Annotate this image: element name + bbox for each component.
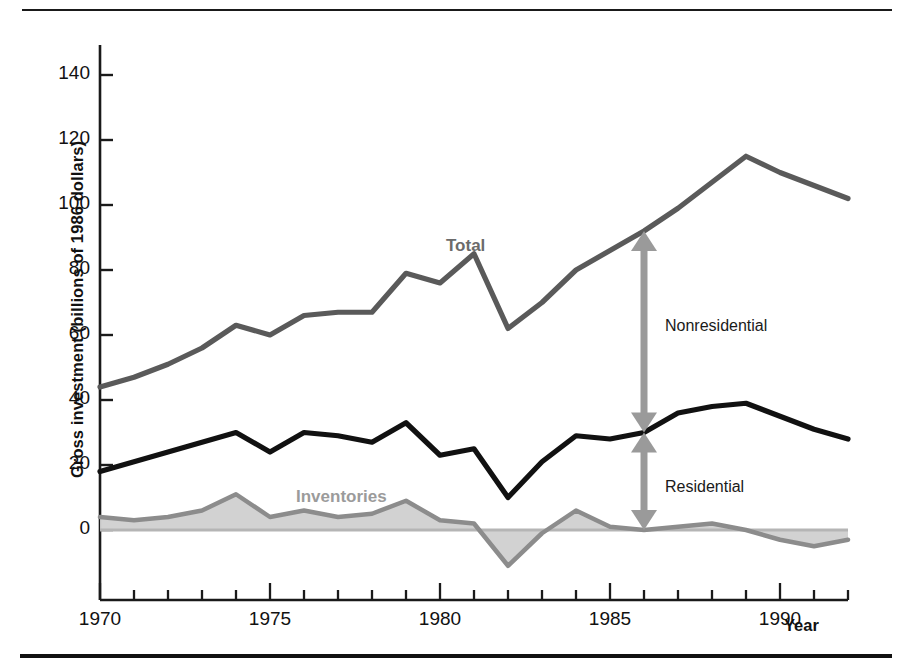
series-label-inventories: Inventories: [296, 487, 387, 507]
y-tick-label: 40: [30, 387, 90, 409]
x-tick-label: 1985: [570, 608, 650, 630]
y-tick-label: 80: [30, 257, 90, 279]
series-label-total: Total: [446, 236, 485, 256]
annotation-label-residential: Residential: [665, 478, 744, 496]
y-tick-label: 100: [30, 192, 90, 214]
series-line-total: [100, 156, 848, 387]
y-tick-label: 60: [30, 322, 90, 344]
x-tick-label: 1975: [230, 608, 310, 630]
x-tick-label: 1980: [400, 608, 480, 630]
y-tick-label: 0: [30, 517, 90, 539]
y-tick-label: 20: [30, 452, 90, 474]
annotation-arrow-nonresidential: [631, 231, 657, 433]
x-tick-label: 1990: [740, 608, 820, 630]
y-tick-label: 120: [30, 127, 90, 149]
annotation-label-nonresidential: Nonresidential: [665, 317, 767, 335]
x-tick-label: 1970: [60, 608, 140, 630]
y-tick-label: 140: [30, 62, 90, 84]
figure-container: Gross investment (billions of 1986 dolla…: [0, 0, 900, 668]
annotation-arrow-residential: [631, 433, 657, 531]
